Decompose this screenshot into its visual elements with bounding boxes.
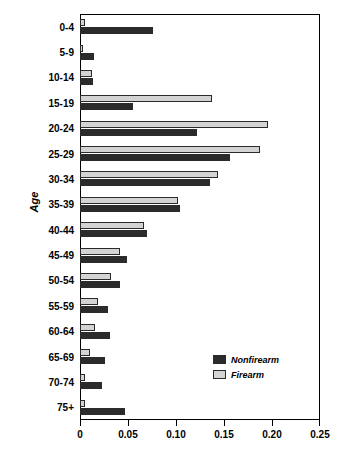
- y-axis-tick-label: 60-64: [48, 326, 74, 337]
- bar-nonfirearm-10-14: [80, 78, 93, 85]
- x-axis-tick: [80, 420, 81, 426]
- bar-nonfirearm-35-39: [80, 205, 180, 212]
- x-axis-tick-label: 0.15: [214, 429, 233, 440]
- x-axis-tick-label: 0.10: [166, 429, 185, 440]
- bar-row: 55-59: [80, 293, 320, 318]
- bar-nonfirearm-0-4: [80, 27, 153, 34]
- y-axis-tick-label: 30-34: [48, 173, 74, 184]
- y-axis-title: Age: [28, 172, 40, 232]
- x-axis-tick-label: 0.20: [262, 429, 281, 440]
- bar-nonfirearm-20-24: [80, 129, 197, 136]
- bar-nonfirearm-70-74: [80, 382, 102, 389]
- bar-firearm-75+: [80, 400, 85, 407]
- y-axis-tick-label: 55-59: [48, 300, 74, 311]
- bar-firearm-5-9: [80, 45, 83, 52]
- bar-row: 15-19: [80, 90, 320, 115]
- y-axis-tick-label: 0-4: [60, 21, 74, 32]
- legend-label-firearm: Firearm: [231, 370, 264, 380]
- y-axis-tick-label: 65-69: [48, 351, 74, 362]
- y-axis-tick-label: 50-54: [48, 275, 74, 286]
- bar-firearm-45-49: [80, 248, 120, 255]
- x-axis-tick: [176, 420, 177, 426]
- bar-chart: Age 0-45-910-1415-1920-2425-2930-3435-39…: [0, 0, 340, 454]
- bar-row: 75+: [80, 395, 320, 420]
- bar-firearm-25-29: [80, 146, 260, 153]
- x-axis-tick: [319, 420, 320, 426]
- bar-row: 30-34: [80, 166, 320, 191]
- bar-nonfirearm-15-19: [80, 103, 133, 110]
- bar-nonfirearm-50-54: [80, 281, 120, 288]
- bar-row: 60-64: [80, 319, 320, 344]
- bar-row: 70-74: [80, 369, 320, 394]
- bar-firearm-10-14: [80, 70, 92, 77]
- bar-row: 45-49: [80, 242, 320, 267]
- x-axis-ticks: 00.050.100.150.200.25: [80, 420, 320, 446]
- x-axis-tick: [272, 420, 273, 426]
- x-axis-tick-label: 0.05: [118, 429, 137, 440]
- bar-firearm-55-59: [80, 298, 98, 305]
- bar-nonfirearm-5-9: [80, 53, 94, 60]
- bar-row: 35-39: [80, 192, 320, 217]
- x-axis-tick: [128, 420, 129, 426]
- y-axis-tick-label: 75+: [57, 402, 74, 413]
- bar-firearm-65-69: [80, 349, 90, 356]
- bar-nonfirearm-55-59: [80, 306, 108, 313]
- legend: Nonfirearm Firearm: [213, 352, 279, 382]
- y-axis-tick-label: 40-44: [48, 224, 74, 235]
- x-axis-tick: [224, 420, 225, 426]
- bar-nonfirearm-75+: [80, 408, 125, 415]
- bar-row: 5-9: [80, 39, 320, 64]
- bar-firearm-70-74: [80, 374, 85, 381]
- bar-rows: 0-45-910-1415-1920-2425-2930-3435-3940-4…: [80, 14, 320, 420]
- bar-nonfirearm-40-44: [80, 230, 147, 237]
- bar-row: 65-69: [80, 344, 320, 369]
- bar-nonfirearm-25-29: [80, 154, 230, 161]
- legend-item-firearm: Firearm: [213, 367, 279, 382]
- y-axis-tick-label: 5-9: [60, 47, 74, 58]
- legend-item-nonfirearm: Nonfirearm: [213, 352, 279, 367]
- legend-swatch-firearm-icon: [213, 370, 226, 379]
- bar-firearm-40-44: [80, 222, 144, 229]
- bar-row: 50-54: [80, 268, 320, 293]
- y-axis-tick-label: 25-29: [48, 148, 74, 159]
- bar-row: 25-29: [80, 141, 320, 166]
- bar-nonfirearm-60-64: [80, 332, 110, 339]
- bar-firearm-60-64: [80, 324, 95, 331]
- x-axis-tick-label: 0: [77, 429, 83, 440]
- bar-nonfirearm-45-49: [80, 256, 127, 263]
- bar-row: 0-4: [80, 14, 320, 39]
- y-axis-tick-label: 15-19: [48, 97, 74, 108]
- bar-firearm-50-54: [80, 273, 111, 280]
- bar-firearm-35-39: [80, 197, 178, 204]
- bar-nonfirearm-65-69: [80, 357, 105, 364]
- y-axis-tick-label: 35-39: [48, 199, 74, 210]
- bar-firearm-0-4: [80, 19, 85, 26]
- bar-firearm-20-24: [80, 121, 268, 128]
- bar-row: 40-44: [80, 217, 320, 242]
- bar-firearm-30-34: [80, 171, 218, 178]
- legend-label-nonfirearm: Nonfirearm: [231, 355, 279, 365]
- bar-row: 10-14: [80, 65, 320, 90]
- y-axis-tick-label: 10-14: [48, 72, 74, 83]
- x-axis-tick-label: 0.25: [310, 429, 329, 440]
- bar-row: 20-24: [80, 116, 320, 141]
- y-axis-tick-label: 70-74: [48, 376, 74, 387]
- bar-nonfirearm-30-34: [80, 179, 210, 186]
- y-axis-tick-label: 45-49: [48, 250, 74, 261]
- bar-firearm-15-19: [80, 95, 212, 102]
- legend-swatch-nonfirearm-icon: [213, 355, 226, 364]
- y-axis-tick-label: 20-24: [48, 123, 74, 134]
